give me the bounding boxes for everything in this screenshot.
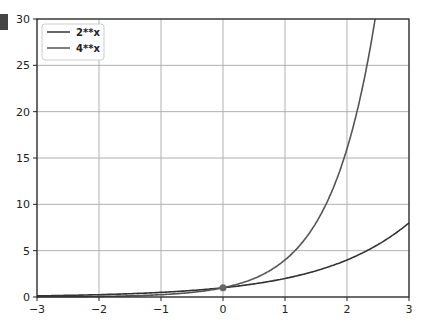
- y-tick-label: 5: [23, 245, 30, 258]
- intersection-point: [220, 284, 227, 291]
- x-axis-ticks: −3−2−10123: [29, 297, 413, 316]
- x-tick-label: 0: [220, 303, 227, 316]
- x-tick-label: −2: [91, 303, 107, 316]
- x-tick-label: 2: [344, 303, 351, 316]
- y-tick-label: 30: [16, 13, 30, 26]
- y-tick-label: 15: [16, 152, 30, 165]
- exponential-line-chart: −3−2−10123 051015202530 2**x 4**x: [0, 0, 425, 329]
- x-tick-label: 3: [406, 303, 413, 316]
- x-tick-label: 1: [282, 303, 289, 316]
- x-tick-label: −1: [153, 303, 169, 316]
- legend: 2**x 4**x: [42, 24, 104, 60]
- x-tick-label: −3: [29, 303, 45, 316]
- legend-label-2x: 2**x: [76, 27, 100, 38]
- y-tick-label: 25: [16, 59, 30, 72]
- grid-lines: [37, 19, 409, 297]
- y-tick-label: 10: [16, 198, 30, 211]
- y-tick-label: 0: [23, 291, 30, 304]
- y-axis-ticks: 051015202530: [16, 13, 37, 304]
- y-tick-label: 20: [16, 106, 30, 119]
- legend-label-4x: 4**x: [76, 43, 100, 54]
